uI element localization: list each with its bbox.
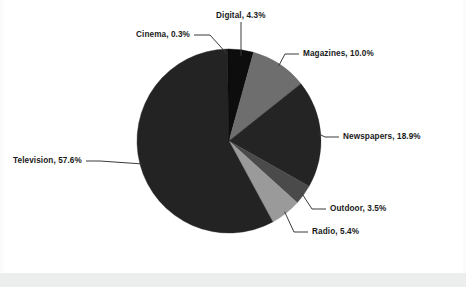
pie-label-radio: Radio, 5.4% [312,228,359,236]
leader-radio [285,212,308,232]
pie-slice-group [137,49,321,233]
bottom-band [0,273,466,287]
pie-label-digital: Digital, 4.3% [216,12,266,20]
pie-chart-canvas [0,0,466,287]
pie-label-television: Television, 57.6% [13,157,82,165]
leader-magazines [279,54,299,66]
leader-newspapers [319,134,339,137]
pie-label-magazines: Magazines, 10.0% [303,50,374,58]
leader-television [86,161,142,164]
leader-outdoor [302,194,326,209]
pie-label-newspapers: Newspapers, 18.9% [343,133,421,141]
pie-label-cinema: Cinema, 0.3% [136,31,190,39]
pie-chart-figure: Digital, 4.3% Magazines, 10.0% Newspaper… [0,0,466,287]
pie-label-outdoor: Outdoor, 3.5% [330,205,386,213]
